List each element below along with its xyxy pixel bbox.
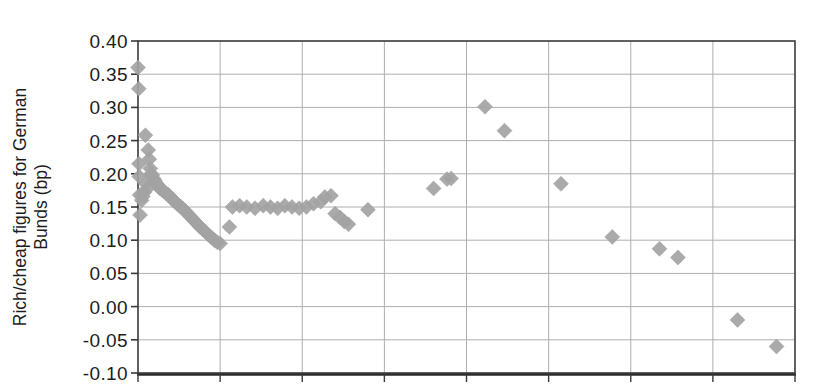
y-axis-title-line-1: Rich/cheap figures for German [10, 88, 30, 326]
y-axis-tick-labels: 0.400.350.300.250.200.150.100.050.00-0.0… [83, 31, 128, 384]
y-tick-label: 0.35 [89, 64, 128, 85]
y-tick-label: 0.10 [89, 230, 128, 251]
y-tick-label: 0.15 [89, 197, 128, 218]
y-tick-label: -0.05 [83, 330, 128, 351]
y-tick-label: 0.30 [89, 97, 128, 118]
chart-canvas: Rich/cheap figures for GermanBunds (bp) … [0, 0, 831, 388]
y-axis-title-line-2: Bunds (bp) [31, 164, 51, 250]
scatter-chart: Rich/cheap figures for GermanBunds (bp) … [0, 0, 831, 388]
y-tick-label: 0.00 [89, 297, 128, 318]
y-tick-label: 0.40 [89, 31, 128, 52]
y-tick-label: -0.10 [83, 363, 128, 384]
y-tick-label: 0.20 [89, 164, 128, 185]
y-tick-label: 0.05 [89, 263, 128, 284]
y-tick-label: 0.25 [89, 131, 128, 152]
